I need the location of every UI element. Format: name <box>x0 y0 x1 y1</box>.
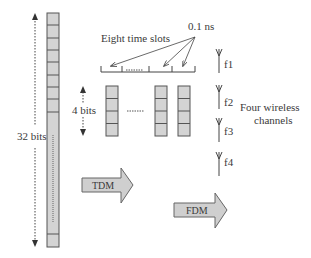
32-bits-label: 32 bits <box>17 130 47 142</box>
antenna-icon <box>216 49 222 73</box>
32-bits-dimension: 32 bits <box>17 13 47 247</box>
antenna-f1: f1 <box>216 49 233 73</box>
antenna-icon <box>216 152 222 176</box>
eight-time-slots-label: Eight time slots <box>101 32 170 44</box>
antenna-f4: f4 <box>216 152 234 176</box>
frequency-label: f2 <box>224 96 233 108</box>
channels-label-line2: channels <box>254 114 292 126</box>
frequency-label: f1 <box>224 58 233 70</box>
4-bits-label: 4 bits <box>72 104 96 116</box>
32-bit-frame-bar <box>47 13 59 247</box>
frequency-label: f4 <box>224 156 234 168</box>
slot-block-1 <box>106 86 118 136</box>
time-slots-ruler <box>101 66 195 72</box>
tdm-fdm-diagram: 32 bits Eight time slots 0.1 ns <box>0 0 311 258</box>
channels-label-line1: Four wireless <box>240 101 300 113</box>
fdm-arrow: FDM <box>174 193 227 228</box>
slot-block-8 <box>178 86 190 136</box>
antenna-f2: f2 <box>216 85 233 109</box>
tdm-arrow: TDM <box>82 168 133 203</box>
arrow-down-icon <box>80 129 86 136</box>
tdm-label: TDM <box>92 180 114 191</box>
arrow-up-icon <box>32 13 38 20</box>
4-bits-dimension: 4 bits <box>72 86 96 136</box>
antenna-icon <box>216 85 222 109</box>
frequency-label: f3 <box>224 125 234 137</box>
slot-duration-label: 0.1 ns <box>188 20 214 32</box>
antenna-f3: f3 <box>216 118 234 142</box>
arrow-up-icon <box>80 86 86 93</box>
antenna-icon <box>216 118 222 142</box>
slot-block-7 <box>155 86 167 136</box>
arrow-down-icon <box>32 240 38 247</box>
fdm-label: FDM <box>186 205 208 216</box>
